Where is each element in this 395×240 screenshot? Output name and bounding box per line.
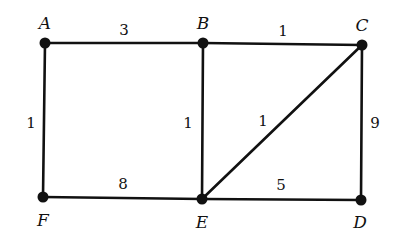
edge-weight-f-e: 8: [118, 175, 128, 193]
edge-weight-c-e: 1: [258, 112, 268, 130]
edge-weight-a-f: 1: [26, 114, 36, 132]
edge-weight-a-b: 3: [119, 21, 129, 39]
node-b: [198, 38, 209, 49]
node-f: [38, 192, 49, 203]
node-label-e: E: [195, 212, 209, 232]
node-label-c: C: [355, 15, 368, 35]
node-label-a: A: [37, 13, 51, 33]
edge-weight-e-d: 5: [276, 176, 286, 194]
edge-weight-b-c: 1: [278, 22, 288, 40]
edge-a-f: [43, 43, 45, 197]
node-label-f: F: [36, 210, 50, 230]
edges-layer: [43, 43, 362, 200]
edge-b-e: [202, 43, 203, 199]
node-c: [357, 40, 368, 51]
node-d: [356, 195, 367, 206]
edge-c-d: [361, 45, 362, 200]
node-e: [197, 194, 208, 205]
edge-f-e: [43, 197, 202, 199]
edge-b-c: [203, 43, 362, 45]
node-label-b: B: [196, 13, 210, 33]
edge-weight-c-d: 9: [370, 114, 380, 132]
node-label-d: D: [352, 212, 367, 232]
node-a: [40, 38, 51, 49]
edge-e-d: [202, 199, 361, 200]
graph-diagram: 31111985 ABCDEF: [0, 0, 395, 240]
edge-weight-b-e: 1: [183, 114, 193, 132]
